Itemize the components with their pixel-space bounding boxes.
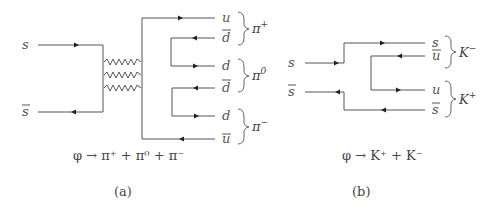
- arrow-right-icon: [193, 64, 198, 69]
- up-quark-pair-line: [371, 56, 425, 90]
- arrow-left-icon: [179, 137, 184, 142]
- quark-label-sbar: s: [432, 102, 439, 117]
- arrow-right-icon: [194, 114, 199, 119]
- quark-label-sbar-in: s: [288, 84, 295, 99]
- diagram-a: s s u d d d d u: [22, 10, 268, 199]
- quark-label-ubar: u: [222, 131, 230, 146]
- brace-pi-plus: [238, 12, 249, 45]
- quark-label-sbar-in: s: [22, 104, 29, 119]
- quark-label-dbar: d: [222, 30, 230, 45]
- meson-label-pi-plus: π+: [251, 19, 268, 36]
- meson-label-pi-minus: π−: [251, 117, 268, 134]
- diagram-b: s s s u u s K− K+ φ → K⁺ + K⁻ (b): [288, 35, 476, 199]
- meson-label-k-minus: K−: [458, 43, 476, 60]
- brace-pi-minus: [238, 109, 249, 144]
- brace-k-plus: [445, 81, 456, 117]
- arrow-left-icon: [335, 90, 340, 95]
- quark-label-d: d: [222, 108, 230, 123]
- quark-label-s-in: s: [288, 55, 295, 70]
- quark-label-s-in: s: [22, 37, 29, 52]
- arrow-left-icon: [192, 36, 197, 41]
- quark-label-dbar: d: [222, 80, 230, 95]
- gluon-1: [104, 59, 141, 65]
- arrow-right-icon: [178, 16, 183, 21]
- incoming-quark-line: [38, 45, 103, 112]
- equation-a: φ → π⁺ + π⁰ + π⁻: [73, 148, 184, 163]
- equation-b: φ → K⁺ + K⁻: [342, 148, 423, 163]
- arrow-right-icon: [334, 61, 339, 66]
- arrow-right-icon: [380, 41, 385, 46]
- arrow-right-icon: [396, 88, 401, 93]
- inner-quark-line-2: [172, 88, 215, 116]
- arrow-left-icon: [71, 110, 76, 115]
- gluon-3: [104, 85, 141, 91]
- gluon-lines: [104, 59, 141, 91]
- feynman-diagrams: s s u d d d d u: [0, 0, 504, 214]
- gluon-2: [104, 72, 141, 78]
- meson-label-k-plus: K+: [458, 90, 476, 107]
- brace-k-minus: [445, 36, 456, 68]
- inner-quark-line-1: [171, 38, 215, 66]
- meson-label-pi-zero: π0: [251, 66, 267, 83]
- antistrange-quark-line: [305, 92, 425, 110]
- outer-quark-line: [142, 18, 215, 139]
- caption-b: (b): [352, 184, 370, 199]
- arrow-left-icon: [193, 86, 198, 91]
- caption-a: (a): [114, 184, 132, 199]
- quark-label-d: d: [222, 58, 230, 73]
- brace-pi-zero: [238, 59, 249, 92]
- quark-label-u: u: [222, 10, 230, 25]
- arrow-right-icon: [74, 43, 79, 48]
- strange-quark-line: [305, 43, 425, 63]
- arrow-left-icon: [397, 54, 402, 59]
- quark-label-u: u: [432, 82, 440, 97]
- arrow-left-icon: [381, 108, 386, 113]
